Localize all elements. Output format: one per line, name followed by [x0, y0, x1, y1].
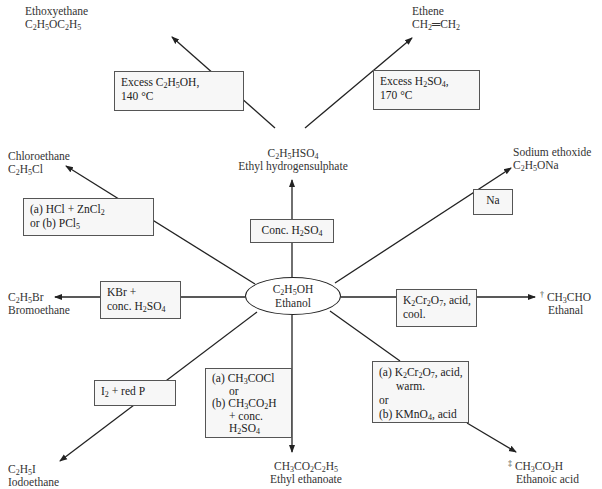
product-formula: CH2═CH2	[412, 18, 460, 31]
condition-box-acid: (a) K2Cr2O7, acid, warm. or (b) KMnO4, a…	[372, 361, 469, 423]
product-ethoxyethane: Ethoxyethane C2H5OC2H5	[25, 5, 88, 31]
product-formula: C2H5Cl	[8, 163, 70, 176]
condition-box-sodium: Na	[473, 189, 513, 215]
condition-box-sulphate: Conc. H2SO4	[250, 219, 334, 243]
product-name: Ethyl ethanoate	[256, 473, 356, 486]
center-ethanol: C2H5OH Ethanol	[245, 277, 341, 315]
condition-box-ethanal: K2Cr2O7, acid, cool.	[396, 289, 477, 327]
product-name: Ethanal	[540, 304, 591, 317]
product-formula: C2H5ONa	[513, 159, 591, 172]
product-name: Sodium ethoxide	[513, 146, 591, 159]
condition-box-ester: (a) CH3COCl or (b) CH3CO2H + conc. H2SO4	[205, 368, 292, 438]
condition-box-ethene: Excess H2SO4, 170 °C	[373, 70, 480, 110]
product-sodium-ethoxide: Sodium ethoxide C2H5ONa	[513, 146, 591, 172]
product-formula: ‡ CH3CO2H	[508, 460, 579, 473]
product-formula: † CH3CHO	[540, 291, 591, 304]
product-name: Ethoxyethane	[25, 5, 88, 18]
product-ethene: Ethene CH2═CH2	[412, 5, 460, 31]
product-ethyl-hydrogensulphate: C2H5HSO4 Ethyl hydrogensulphate	[230, 147, 356, 173]
product-name: Iodoethane	[8, 476, 59, 489]
product-formula: C2H5HSO4	[230, 147, 356, 160]
condition-box-ether: Excess C2H5OH, 140 °C	[114, 71, 244, 111]
product-name: Ethanoic acid	[508, 473, 579, 486]
product-chloroethane: Chloroethane C2H5Cl	[8, 150, 70, 176]
center-name: Ethanol	[246, 296, 340, 310]
condition-box-bromo: KBr + conc. H2SO4	[100, 281, 181, 319]
product-name: Ethyl hydrogensulphate	[230, 160, 356, 173]
product-name: Ethene	[412, 5, 460, 18]
reaction-arrows	[0, 0, 602, 489]
condition-box-iodo: I2 + red P	[94, 380, 176, 406]
product-bromoethane: C2H5Br Bromoethane	[8, 291, 70, 317]
product-formula: C2H5Br	[8, 291, 70, 304]
product-iodoethane: C2H5I Iodoethane	[8, 463, 59, 489]
product-name: Chloroethane	[8, 150, 70, 163]
product-formula: C2H5I	[8, 463, 59, 476]
product-ethanoic-acid: ‡ CH3CO2H Ethanoic acid	[508, 460, 579, 486]
product-ethanal: † CH3CHO Ethanal	[540, 291, 591, 317]
condition-box-chloro: (a) HCl + ZnCl2 or (b) PCl5	[23, 198, 154, 236]
product-formula: C2H5OC2H5	[25, 18, 88, 31]
product-name: Bromoethane	[8, 304, 70, 317]
product-ethyl-ethanoate: CH3CO2C2H5 Ethyl ethanoate	[256, 460, 356, 486]
product-formula: CH3CO2C2H5	[256, 460, 356, 473]
center-formula: C2H5OH	[246, 282, 340, 296]
